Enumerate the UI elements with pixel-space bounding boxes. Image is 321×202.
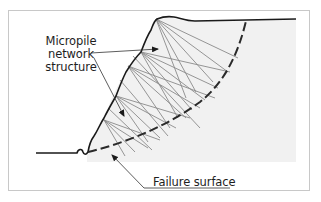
micropile-label-line3: structure: [36, 61, 106, 74]
failure-surface-label: Failure surface: [153, 176, 236, 189]
slope-diagram: [0, 0, 321, 202]
micropile-network-label: Micropile network structure: [36, 35, 106, 74]
